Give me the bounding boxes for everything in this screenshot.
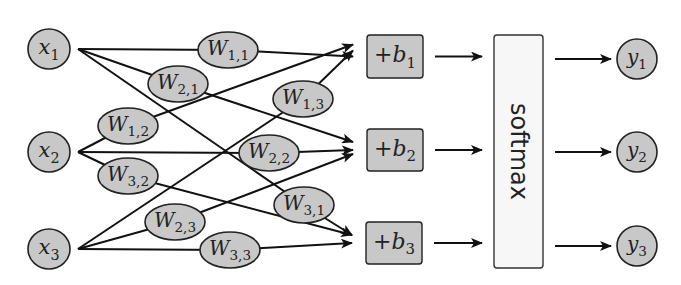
input-node-x3: x3 [28, 229, 70, 269]
output-node-y2: y2 [617, 132, 657, 172]
softmax-label: softmax [505, 103, 533, 200]
weight-node-W13: W1,3 [273, 81, 333, 117]
bias-node-b3: +b3 [366, 222, 422, 264]
input-node-x2: x2 [28, 132, 70, 172]
weight-node-W23: W2,3 [145, 204, 205, 240]
diagram-canvas: x1x2x3W1,1W2,1W3,1W1,2W2,2W3,2W1,3W2,3W3… [0, 0, 681, 285]
bias-node-b1: +b1 [367, 35, 423, 78]
input-node-x1: x1 [28, 29, 70, 69]
neural-net-diagram: x1x2x3W1,1W2,1W3,1W1,2W2,2W3,2W1,3W2,3W3… [0, 0, 681, 285]
weight-node-W11: W1,1 [198, 32, 258, 68]
weight-node-W31: W3,1 [274, 187, 334, 223]
weight-node-W32: W3,2 [98, 158, 158, 194]
weight-node-W12: W1,2 [98, 108, 158, 144]
weight-node-W22: W2,2 [239, 135, 299, 171]
weight-node-W21: W2,1 [148, 66, 208, 102]
weight-node-W33: W3,3 [200, 232, 260, 268]
output-node-y1: y1 [617, 39, 657, 79]
output-node-y3: y3 [617, 226, 657, 266]
bias-node-b2: +b2 [367, 129, 423, 171]
softmax-node: softmax [494, 35, 543, 268]
